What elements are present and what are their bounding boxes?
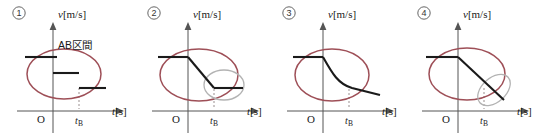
panel-number-label-2: 2 xyxy=(151,8,156,18)
panel-number-2: 2 xyxy=(148,7,160,19)
graph-panel-2: 2 v[m/s] t[s] O tB xyxy=(135,0,270,138)
y-axis-label-2: v[m/s] xyxy=(193,8,221,20)
panel-number-label-1: 1 xyxy=(16,8,21,18)
axes-4 xyxy=(422,22,529,133)
origin-label-1: O xyxy=(37,113,45,125)
x-axis-label-4: t[s] xyxy=(517,105,532,117)
graph-curve-2 xyxy=(158,57,243,88)
y-axis-label-1: v[m/s] xyxy=(58,8,86,20)
origin-label-4: O xyxy=(442,113,450,125)
panel-number-label-4: 4 xyxy=(421,8,426,18)
velocity-time-graph-figure: 1 v[m/s] t[s] O tB AB区間 xyxy=(0,0,542,138)
tb-label-4: tB xyxy=(480,115,488,128)
panel-number-4: 4 xyxy=(418,7,430,19)
x-axis-label-3: t[s] xyxy=(382,105,397,117)
tb-label-1: tB xyxy=(75,115,83,128)
graph-panel-4: 4 v[m/s] t[s] O tB xyxy=(405,0,542,138)
curve-segment-decay-3 xyxy=(323,57,380,95)
y-axis-arrow-1 xyxy=(50,22,57,30)
graph-panel-1: 1 v[m/s] t[s] O tB AB区間 xyxy=(0,0,135,138)
panel-number-label-3: 3 xyxy=(286,8,291,18)
y-axis-label-3: v[m/s] xyxy=(328,8,356,20)
x-axis-label-2: t[s] xyxy=(247,105,262,117)
tb-label-3: tB xyxy=(345,115,353,128)
y-axis-label-4: v[m/s] xyxy=(463,8,491,20)
origin-label-3: O xyxy=(307,113,315,125)
graph-panel-3: 3 v[m/s] t[s] O tB xyxy=(270,0,405,138)
graph-curve-3 xyxy=(293,57,380,95)
x-axis-label-1: t[s] xyxy=(112,105,127,117)
curve-segment-decrease-4 xyxy=(458,57,504,100)
y-axis-arrow-3 xyxy=(320,22,327,30)
y-axis-arrow-4 xyxy=(455,22,462,30)
y-axis-arrow-2 xyxy=(185,22,192,30)
highlight-ellipse-4 xyxy=(429,48,505,100)
graph-curve-1 xyxy=(25,57,106,88)
curve-segment-decrease-2 xyxy=(188,57,214,88)
section-label-ab: AB区間 xyxy=(58,39,92,51)
axes-3 xyxy=(287,22,394,133)
origin-label-2: O xyxy=(172,113,180,125)
panel-number-1: 1 xyxy=(13,7,25,19)
tb-label-2: tB xyxy=(210,115,218,128)
panel-number-3: 3 xyxy=(283,7,295,19)
